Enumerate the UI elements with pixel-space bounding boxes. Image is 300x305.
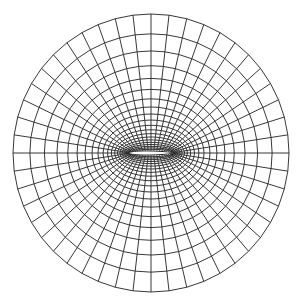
mesh-radial-line	[172, 154, 284, 189]
mesh-radial-line	[167, 155, 249, 252]
mesh-radial-line	[67, 43, 138, 151]
mesh-radial-line	[18, 117, 130, 152]
airfoil-shape	[129, 151, 173, 155]
mesh-radial-line	[53, 155, 135, 252]
mesh-radial-line	[164, 43, 235, 151]
mesh-radial-line	[167, 55, 249, 152]
mesh-radial-line	[172, 117, 284, 152]
mesh-radial-line	[14, 135, 129, 153]
mesh-radial-line	[173, 153, 288, 171]
mesh-radial-line	[14, 153, 129, 171]
mesh-radial-line	[53, 55, 135, 152]
mesh-radial-line	[18, 154, 130, 189]
mesh-radial-line	[67, 155, 138, 263]
mesh-radial-line	[173, 135, 288, 153]
mesh-diagram	[0, 0, 300, 305]
o-grid-mesh	[0, 0, 300, 305]
mesh-radial-line	[164, 155, 235, 263]
